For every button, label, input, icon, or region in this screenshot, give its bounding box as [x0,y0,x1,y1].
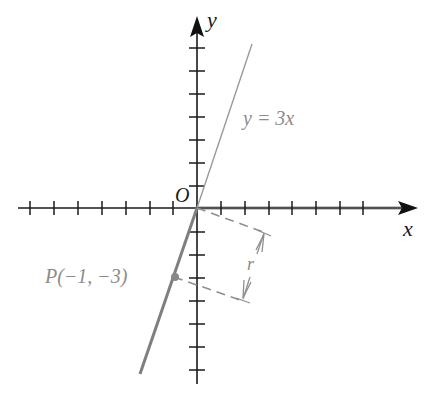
y-axis-label: y [205,7,217,32]
point-p [171,273,179,281]
point-label: P(−1, −3) [44,265,128,288]
terminal-ray [140,208,197,374]
dashed-line-origin [197,208,266,233]
arrow-up-icon [256,234,264,252]
distance-label: r [247,254,255,274]
arrow-down-icon [243,280,251,298]
x-axis-label: x [402,216,413,241]
equation-label: y = 3x [241,107,294,130]
origin-label: O [175,184,189,206]
dashed-line-point [174,277,243,301]
coordinate-diagram: y x O y = 3x P(−1, −3) r [0,0,426,393]
